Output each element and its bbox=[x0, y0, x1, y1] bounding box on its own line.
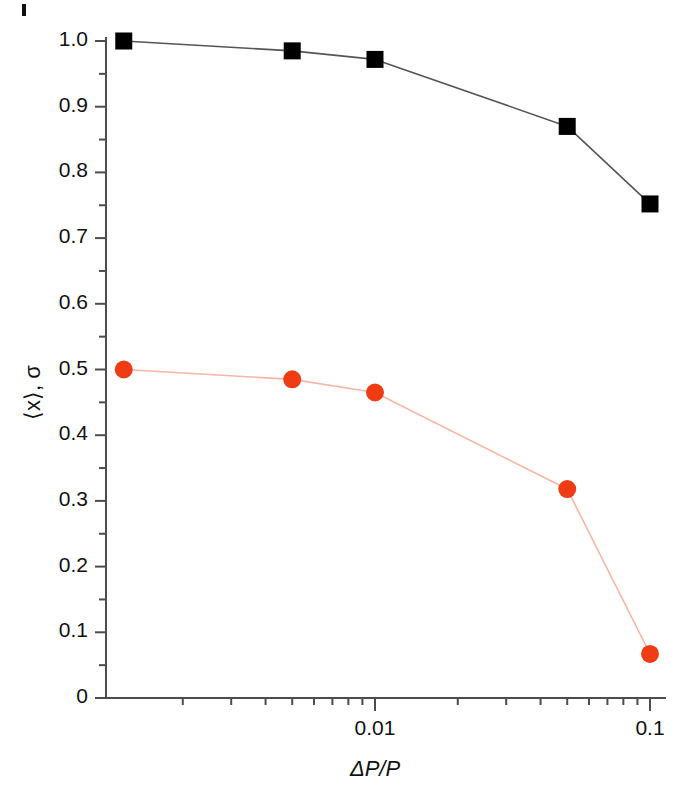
y-tick-label: 0.4 bbox=[59, 421, 88, 445]
y-tick-label: 0.2 bbox=[59, 553, 88, 577]
series-markers bbox=[115, 33, 659, 663]
x-tick-label: 0.01 bbox=[325, 716, 425, 740]
y-tick-label: 1.0 bbox=[59, 27, 88, 51]
data-point-circle bbox=[366, 384, 384, 402]
y-tick-label: 0 bbox=[76, 684, 88, 708]
y-tick-label: 0.9 bbox=[59, 93, 88, 117]
series-line-2 bbox=[124, 370, 650, 654]
data-point-circle bbox=[115, 361, 133, 379]
data-point-circle bbox=[283, 370, 301, 388]
y-axis-title: ⟨x⟩, σ bbox=[20, 365, 46, 420]
x-tick-label: 0.1 bbox=[600, 716, 698, 740]
data-point-square bbox=[642, 195, 659, 212]
y-tick-label: 0.6 bbox=[59, 290, 88, 314]
y-tick-label: 0.8 bbox=[59, 158, 88, 182]
data-point-square bbox=[559, 118, 576, 135]
y-tick-label: 0.5 bbox=[59, 356, 88, 380]
figure-canvas: 00.10.20.30.40.50.60.70.80.91.0 0.010.1 … bbox=[0, 0, 698, 802]
x-tick-marks bbox=[183, 698, 650, 711]
plot-area bbox=[0, 0, 698, 802]
data-point-circle bbox=[641, 645, 659, 663]
y-tick-label: 0.1 bbox=[59, 618, 88, 642]
data-point-square bbox=[284, 42, 301, 59]
y-tick-marks bbox=[95, 41, 106, 698]
data-point-square bbox=[115, 33, 132, 50]
y-tick-label: 0.7 bbox=[59, 224, 88, 248]
x-axis-title: ΔP/P bbox=[275, 756, 475, 782]
axis-lines bbox=[106, 37, 666, 698]
y-tick-label: 0.3 bbox=[59, 487, 88, 511]
data-point-circle bbox=[558, 480, 576, 498]
data-point-square bbox=[367, 51, 384, 68]
